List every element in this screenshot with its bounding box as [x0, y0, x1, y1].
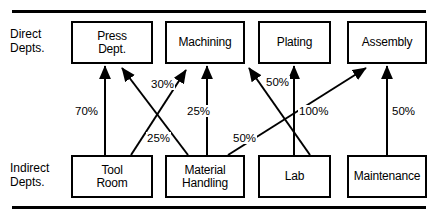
node-box-maintenance[interactable]: Maintenance — [347, 155, 427, 198]
node-label-machining: Machining — [179, 36, 232, 49]
node-label-maintenance: Maintenance — [354, 170, 421, 183]
node-box-press[interactable]: Press Dept. — [71, 21, 153, 64]
node-box-machining[interactable]: Machining — [165, 21, 245, 64]
node-label-plating: Plating — [277, 36, 312, 49]
department-allocation-diagram: Direct Depts.Indirect Depts. Press Dept.… — [0, 0, 438, 211]
node-box-tool-room[interactable]: Tool Room — [71, 155, 153, 198]
node-label-tool-room: Tool Room — [96, 164, 127, 190]
edge-percent-material-handling-to-machining: 25% — [186, 105, 211, 117]
edge-percent-tool-room-to-machining: 30% — [150, 78, 175, 90]
node-box-plating[interactable]: Plating — [258, 21, 331, 64]
edge-percent-lab-to-plating: 100% — [298, 105, 329, 117]
node-box-lab[interactable]: Lab — [258, 155, 331, 198]
row-label-direct-depts: Direct Depts. — [10, 28, 45, 55]
edge-percent-lab-to-machining: 50% — [265, 76, 290, 88]
edge-percent-material-handling-to-assembly: 50% — [232, 132, 257, 144]
node-label-assembly: Assembly — [362, 36, 412, 49]
node-label-press: Press Dept. — [97, 30, 127, 56]
edge-percent-maintenance-to-assembly: 50% — [391, 105, 416, 117]
node-box-assembly[interactable]: Assembly — [347, 21, 427, 64]
bottom-rule — [12, 206, 426, 209]
edge-percent-material-handling-to-press: 25% — [146, 132, 171, 144]
row-label-indirect-depts: Indirect Depts. — [10, 162, 49, 189]
edge-percent-tool-room-to-press: 70% — [74, 105, 99, 117]
node-label-lab: Lab — [285, 170, 304, 183]
node-label-material-handling: Material Handling — [182, 164, 228, 190]
top-rule — [12, 10, 426, 13]
node-box-material-handling[interactable]: Material Handling — [165, 155, 245, 198]
